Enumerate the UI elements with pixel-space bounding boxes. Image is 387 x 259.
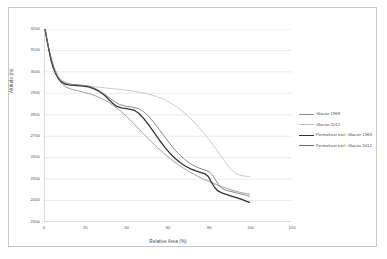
legend-item-label: Glacier 1969 (316, 112, 340, 116)
chart-legend: Glacier 1969Glacier 2012Permafrost excl.… (299, 109, 377, 151)
legend-item-label: Permafrost excl. Glacier 1969 (316, 133, 372, 137)
y-tick-label: 2800 (8, 113, 40, 117)
legend-item[interactable]: Permafrost excl. Glacier 2012 (299, 141, 377, 152)
x-tick-label: 40 (114, 226, 140, 230)
y-tick-label: 2900 (8, 91, 40, 95)
legend-line-icon (299, 122, 314, 127)
y-tick-label: 3200 (8, 27, 40, 31)
x-tick-label: 80 (196, 226, 222, 230)
axis-lines (44, 29, 292, 222)
y-tick-label: 2700 (8, 134, 40, 138)
legend-item[interactable]: Permafrost excl. Glacier 1969 (299, 130, 377, 141)
x-tick-label: 100 (238, 226, 264, 230)
legend-item[interactable]: Glacier 1969 (299, 109, 377, 120)
legend-item-label: Permafrost excl. Glacier 2012 (316, 144, 372, 148)
plot-area (44, 29, 292, 222)
series-line (45, 29, 250, 177)
x-tick-label: 0 (31, 226, 57, 230)
y-tick-label: 2600 (8, 155, 40, 159)
y-tick-label: 2300 (8, 220, 40, 224)
chart-canvas (44, 29, 292, 222)
series-line (45, 29, 250, 196)
y-tick-label: 3100 (8, 48, 40, 52)
series-lines (45, 29, 250, 202)
x-tick-label: 120 (279, 226, 305, 230)
legend-line-icon (299, 133, 314, 138)
legend-line-icon (299, 112, 314, 117)
legend-line-icon (299, 143, 314, 148)
y-tick-label: 2500 (8, 177, 40, 181)
x-tick-label: 20 (72, 226, 98, 230)
x-tick-label: 60 (155, 226, 181, 230)
gridlines (44, 29, 292, 201)
legend-item[interactable]: Glacier 2012 (299, 120, 377, 131)
y-tick-label: 3000 (8, 70, 40, 74)
x-axis-title: Relative Area (%) (44, 239, 292, 244)
legend-item-label: Glacier 2012 (316, 123, 340, 127)
series-line (45, 29, 250, 194)
chart-figure: Altitude (m) Relative Area (%) 320031003… (0, 0, 387, 259)
y-tick-label: 2400 (8, 198, 40, 202)
